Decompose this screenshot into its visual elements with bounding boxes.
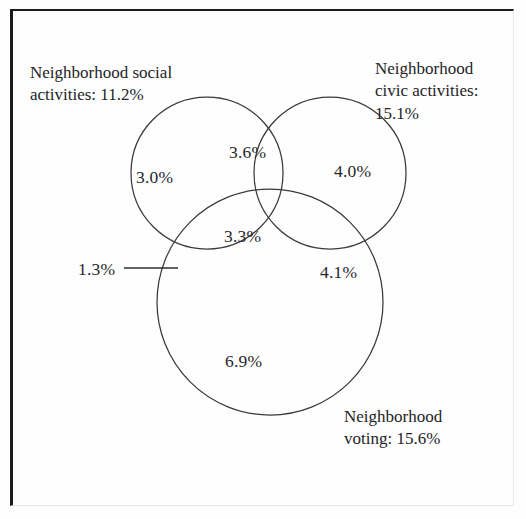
venn-diagram-figure: Neighborhood social activities: 11.2% Ne…	[0, 0, 526, 519]
region-value-social-civic: 3.6%	[229, 142, 266, 163]
region-value-all-three: 3.3%	[224, 226, 261, 247]
set-label-civic-activities: Neighborhood civic activities: 15.1%	[375, 58, 478, 125]
set-label-voting: Neighborhood voting: 15.6%	[344, 406, 442, 451]
region-value-social-only: 3.0%	[136, 167, 173, 188]
region-value-voting-only: 6.9%	[225, 351, 262, 372]
region-value-social-voting: 1.3%	[78, 259, 115, 280]
region-value-civic-voting: 4.1%	[320, 262, 357, 283]
region-value-civic-only: 4.0%	[334, 161, 371, 182]
set-label-social-activities: Neighborhood social activities: 11.2%	[30, 62, 172, 107]
circle-voting	[157, 189, 383, 415]
